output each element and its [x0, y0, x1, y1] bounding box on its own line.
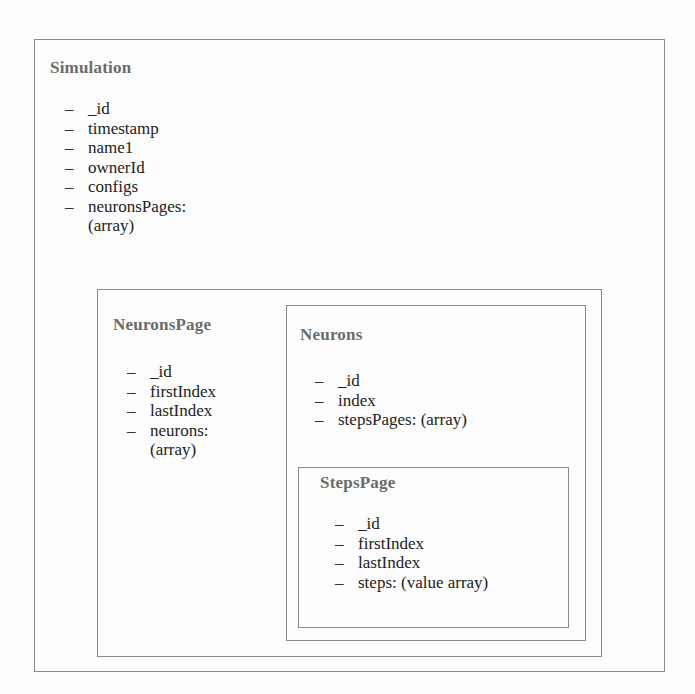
field-type-continuation: (array) — [88, 216, 186, 236]
field-item: –steps: (value array) — [358, 573, 488, 593]
field-label: _id — [358, 514, 380, 533]
neurons-title: Neurons — [300, 325, 363, 345]
dash-bullet-icon: – — [315, 391, 324, 411]
dash-bullet-icon: – — [65, 99, 74, 119]
field-label: neuronsPages: — [88, 197, 186, 216]
field-label: firstIndex — [150, 382, 216, 401]
field-item: –_id — [338, 371, 467, 391]
dash-bullet-icon: – — [65, 158, 74, 178]
simulation-title: Simulation — [50, 58, 131, 78]
dash-bullet-icon: – — [65, 197, 74, 217]
field-item: –_id — [358, 514, 488, 534]
dash-bullet-icon: – — [335, 553, 344, 573]
field-label: name1 — [88, 138, 133, 157]
field-item: –index — [338, 391, 467, 411]
field-item: –configs — [88, 177, 186, 197]
field-label: lastIndex — [150, 401, 212, 420]
field-label: lastIndex — [358, 553, 420, 572]
dash-bullet-icon: – — [127, 401, 136, 421]
dash-bullet-icon: – — [65, 138, 74, 158]
dash-bullet-icon: – — [127, 382, 136, 402]
dash-bullet-icon: – — [127, 362, 136, 382]
dash-bullet-icon: – — [127, 421, 136, 441]
neurons-page-field-list: –_id –firstIndex –lastIndex –neurons:(ar… — [150, 362, 216, 460]
simulation-field-list: –_id –timestamp –name1 –ownerId –configs… — [88, 99, 186, 236]
field-label: firstIndex — [358, 534, 424, 553]
field-label: index — [338, 391, 376, 410]
dash-bullet-icon: – — [65, 177, 74, 197]
field-label: steps: (value array) — [358, 573, 488, 592]
field-item: –_id — [150, 362, 216, 382]
field-item: –_id — [88, 99, 186, 119]
field-item: –firstIndex — [358, 534, 488, 554]
dash-bullet-icon: – — [315, 371, 324, 391]
field-item: –neurons:(array) — [150, 421, 216, 460]
field-item: –firstIndex — [150, 382, 216, 402]
dash-bullet-icon: – — [65, 119, 74, 139]
dash-bullet-icon: – — [335, 514, 344, 534]
dash-bullet-icon: – — [315, 410, 324, 430]
dash-bullet-icon: – — [335, 534, 344, 554]
field-label: neurons: — [150, 421, 209, 440]
neurons-field-list: –_id –index –stepsPages: (array) — [338, 371, 467, 430]
field-type-continuation: (array) — [150, 440, 216, 460]
field-label: _id — [150, 362, 172, 381]
field-label: timestamp — [88, 119, 159, 138]
dash-bullet-icon: – — [335, 573, 344, 593]
field-label: configs — [88, 177, 138, 196]
field-item: –neuronsPages:(array) — [88, 197, 186, 236]
field-label: _id — [338, 371, 360, 390]
field-label: stepsPages: (array) — [338, 410, 467, 429]
field-label: _id — [88, 99, 110, 118]
steps-page-field-list: –_id –firstIndex –lastIndex –steps: (val… — [358, 514, 488, 592]
field-item: –name1 — [88, 138, 186, 158]
field-item: –ownerId — [88, 158, 186, 178]
field-item: –stepsPages: (array) — [338, 410, 467, 430]
neurons-page-title: NeuronsPage — [113, 315, 211, 335]
field-label: ownerId — [88, 158, 145, 177]
field-item: –lastIndex — [358, 553, 488, 573]
steps-page-title: StepsPage — [320, 473, 395, 493]
field-item: –timestamp — [88, 119, 186, 139]
field-item: –lastIndex — [150, 401, 216, 421]
